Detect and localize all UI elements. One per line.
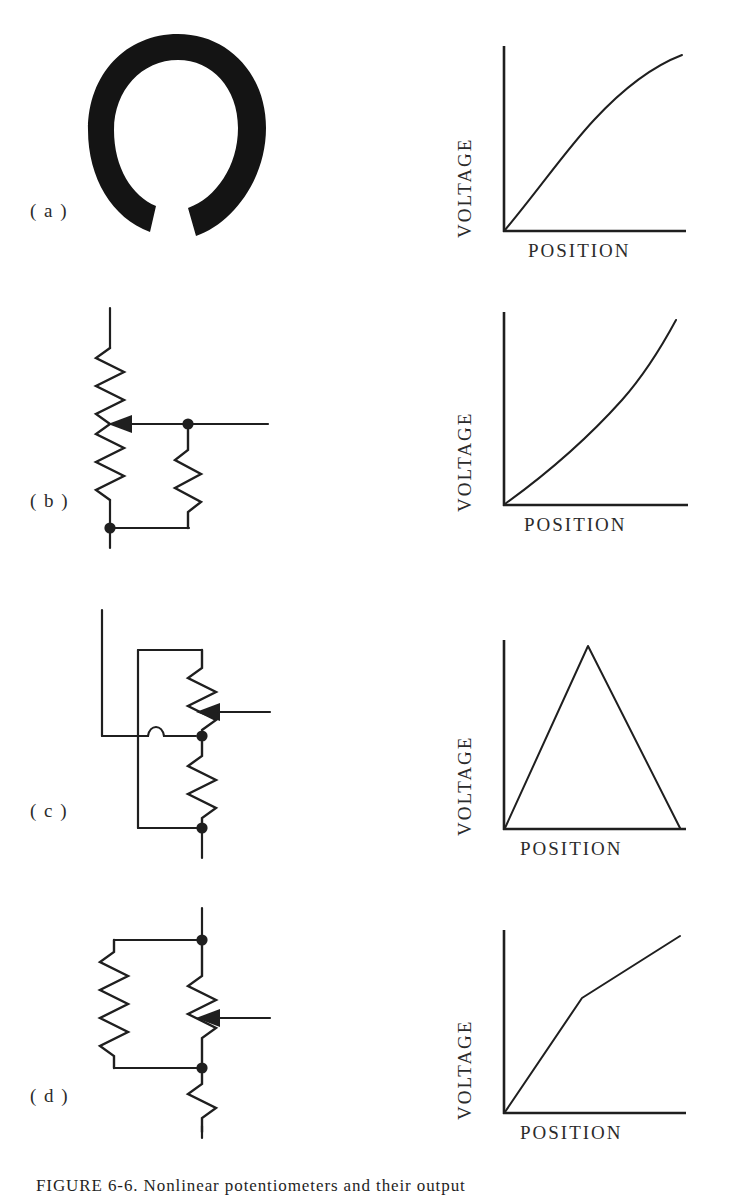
panel-label-d: ( d ) [30, 1085, 69, 1107]
curve-c [505, 646, 680, 828]
shunt-loaded-potentiometer [70, 300, 300, 550]
tap-node-c [196, 730, 207, 741]
panel-label-a: ( a ) [30, 200, 68, 222]
panel-d: ( d ) [0, 880, 730, 1180]
panel-label-c: ( c ) [30, 800, 68, 822]
junction-node-b-bottom [104, 522, 115, 533]
wire-hop-c [148, 727, 164, 736]
pot-body-d-upper [188, 940, 216, 1068]
wiper-arrow-c [196, 703, 220, 721]
shunt-resistor-d [100, 940, 128, 1068]
graph-b: VOLTAGE POSITION [470, 298, 710, 553]
y-axis-label-a: VOLTAGE [454, 138, 476, 238]
pot-body-d-lower [188, 1074, 216, 1132]
center-tapped-shorted-potentiometer [70, 606, 305, 861]
panel-b: ( b ) [0, 290, 730, 590]
graph-a: VOLTAGE POSITION [470, 28, 710, 278]
y-axis-label-d: VOLTAGE [454, 1020, 476, 1120]
graph-d: VOLTAGE POSITION [470, 892, 710, 1147]
figure-sheet: ( a ) VOLTAGE POSITION ( b ) [0, 0, 730, 1196]
panel-c: ( c ) [0, 600, 730, 900]
curve-a [505, 55, 682, 230]
figure-caption: FIGURE 6-6. Nonlinear potentiometers and… [36, 1174, 696, 1196]
tapered-toroid-potentiometer [70, 28, 290, 258]
panel-label-b: ( b ) [30, 490, 69, 512]
x-axis-label-c: POSITION [520, 838, 623, 860]
x-axis-label-a: POSITION [528, 240, 631, 262]
panel-a: ( a ) VOLTAGE POSITION [0, 0, 730, 290]
shunt-resistor-b [175, 430, 201, 528]
y-axis-label-b: VOLTAGE [454, 412, 476, 512]
x-axis-label-d: POSITION [520, 1122, 623, 1144]
x-axis-label-b: POSITION [524, 514, 627, 536]
junction-node-b-top [182, 418, 193, 429]
graph-c: VOLTAGE POSITION [470, 612, 710, 867]
wiper-arrow-b [108, 415, 132, 433]
y-axis-label-c: VOLTAGE [454, 736, 476, 836]
curve-d [505, 936, 680, 1112]
mid-node-d [196, 1062, 207, 1073]
pot-body-c-upper [188, 650, 216, 730]
partially-shunted-potentiometer [70, 880, 305, 1140]
pot-body-c-lower [188, 742, 216, 828]
curve-b [505, 320, 676, 504]
